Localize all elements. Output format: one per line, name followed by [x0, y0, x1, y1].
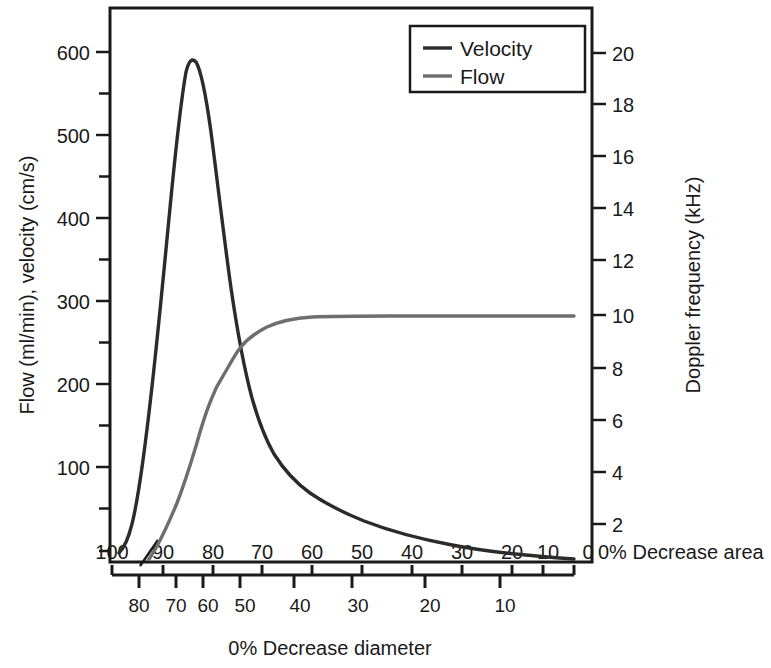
- diameter-tick-label-50: 50: [234, 595, 255, 616]
- legend: Velocity Flow: [410, 26, 585, 92]
- left-tick-label-300: 300: [57, 291, 90, 313]
- diameter-axis-title: 0% Decrease diameter: [228, 637, 432, 659]
- right-tick-label-14: 14: [612, 198, 634, 220]
- right-tick-label-10: 10: [612, 305, 634, 327]
- area-tick-label-80: 80: [202, 541, 224, 563]
- area-tick-label-60: 60: [301, 541, 323, 563]
- right-tick-label-16: 16: [612, 146, 634, 168]
- chart-svg: 600 500 400 300 200 100 Flow (ml/min), v…: [0, 0, 771, 668]
- legend-label-velocity: Velocity: [460, 37, 533, 60]
- left-tick-label-500: 500: [57, 125, 90, 147]
- canvas-background: [0, 0, 771, 668]
- diameter-tick-label-10: 10: [494, 595, 515, 616]
- right-tick-label-2: 2: [612, 514, 623, 536]
- left-tick-label-100: 100: [57, 457, 90, 479]
- right-tick-label-12: 12: [612, 250, 634, 272]
- left-tick-label-200: 200: [57, 374, 90, 396]
- diameter-tick-label-80: 80: [128, 595, 149, 616]
- diameter-tick-label-40: 40: [289, 595, 310, 616]
- right-axis-title: Doppler frequency (kHz): [682, 177, 704, 394]
- area-tick-label-40: 40: [401, 541, 423, 563]
- diameter-tick-label-60: 60: [197, 595, 218, 616]
- chart-figure: 600 500 400 300 200 100 Flow (ml/min), v…: [0, 0, 771, 668]
- diameter-tick-label-20: 20: [419, 595, 440, 616]
- right-tick-label-4: 4: [612, 462, 623, 484]
- diameter-tick-label-70: 70: [165, 595, 186, 616]
- legend-label-flow: Flow: [460, 65, 505, 88]
- right-tick-label-18: 18: [612, 94, 634, 116]
- left-axis-title: Flow (ml/min), velocity (cm/s): [16, 156, 38, 415]
- area-tick-label-50: 50: [351, 541, 373, 563]
- area-tick-label-10: 10: [537, 541, 559, 563]
- area-axis-title: 0% Decrease area: [598, 541, 765, 563]
- right-tick-label-8: 8: [612, 358, 623, 380]
- left-tick-label-600: 600: [57, 42, 90, 64]
- area-tick-label-70: 70: [251, 541, 273, 563]
- left-tick-label-400: 400: [57, 208, 90, 230]
- area-tick-label-0: 0: [582, 541, 593, 563]
- diameter-tick-label-30: 30: [347, 595, 368, 616]
- right-tick-label-20: 20: [612, 43, 634, 65]
- right-tick-label-6: 6: [612, 410, 623, 432]
